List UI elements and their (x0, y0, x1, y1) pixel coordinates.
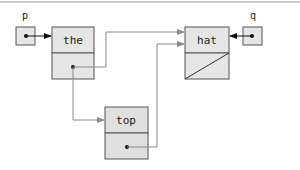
pointer-p-label: p (22, 10, 28, 21)
node-the-label: the (63, 34, 83, 47)
pointer-p: p (16, 10, 51, 45)
pointer-q: q (230, 10, 262, 45)
node-hat: hat (185, 27, 229, 79)
pointer-q-label: q (250, 10, 256, 21)
node-hat-label: hat (197, 34, 217, 47)
node-top-label: top (116, 114, 136, 127)
node-top: top (105, 107, 148, 159)
linked-list-diagram: p q the hat top (0, 0, 300, 170)
